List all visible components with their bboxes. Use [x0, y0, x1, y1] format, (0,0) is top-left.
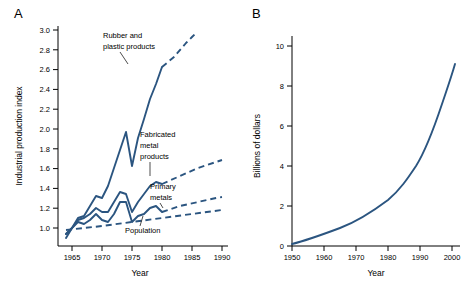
- panel-b-plot: 0 2 4 6 8 10 1950 1960 1970 1980 1990 20…: [236, 0, 472, 294]
- y-ticklabel: 1.0: [40, 224, 50, 233]
- x-ticklabel: 1950: [284, 253, 301, 262]
- annotation-line2: metals: [150, 193, 172, 202]
- panel-a: A 1.0 1.2 1.4 1.6 1.8 2.0 2.2 2.4: [0, 0, 236, 294]
- annotation-fabricated-metal: Fabricated metal products: [140, 130, 175, 176]
- y-ticklabel: 10: [276, 42, 284, 51]
- x-ticklabel: 1970: [348, 253, 365, 262]
- x-ticklabel: 1990: [214, 253, 231, 262]
- panel-a-ylabel: Industrial production index: [14, 86, 24, 186]
- y-ticklabel: 8: [280, 82, 284, 91]
- panel-b-x-ticklabels: 1950 1960 1970 1980 1990 2000: [284, 253, 461, 262]
- x-ticklabel: 1975: [124, 253, 141, 262]
- series-sales: [292, 64, 455, 244]
- y-ticklabel: 2: [280, 202, 284, 211]
- annotation-primary-metals: Primary metals: [150, 182, 176, 208]
- panel-a-xlabel: Year: [131, 268, 148, 278]
- panel-a-x-ticks: [72, 246, 222, 251]
- x-ticklabel: 2000: [444, 253, 461, 262]
- y-ticklabel: 2.2: [40, 105, 50, 114]
- y-ticklabel: 2.4: [40, 85, 50, 94]
- y-ticklabel: 0: [280, 242, 284, 251]
- x-ticklabel: 1960: [316, 253, 333, 262]
- y-ticklabel: 1.2: [40, 204, 50, 213]
- panel-a-letter: A: [14, 6, 23, 21]
- y-ticklabel: 1.6: [40, 164, 50, 173]
- series-fabricated-metal-dashed: [162, 160, 222, 184]
- x-ticklabel: 1985: [184, 253, 201, 262]
- panel-a-y-ticks: [53, 30, 58, 228]
- x-ticklabel: 1990: [412, 253, 429, 262]
- annotation-line1: Population: [125, 226, 160, 235]
- x-ticklabel: 1970: [94, 253, 111, 262]
- panel-a-x-ticklabels: 1965 1970 1975 1980 1985 1990: [64, 253, 231, 262]
- panel-b-y-ticklabels: 0 2 4 6 8 10: [276, 42, 284, 251]
- series-rubber-plastic-dashed: [162, 33, 196, 67]
- x-ticklabel: 1980: [380, 253, 397, 262]
- annotation-line1: Primary: [150, 182, 176, 191]
- panel-b-y-ticks: [287, 46, 292, 246]
- y-ticklabel: 6: [280, 122, 284, 131]
- y-ticklabel: 1.4: [40, 184, 50, 193]
- panel-b-ylabel: Billions of dollars: [252, 114, 262, 178]
- y-ticklabel: 3.0: [40, 26, 50, 35]
- annotation-line2: metal: [140, 141, 159, 150]
- y-ticklabel: 2.0: [40, 125, 50, 134]
- annotation-line1: Rubber and: [103, 31, 142, 40]
- annotation-line1: Fabricated: [140, 130, 175, 139]
- y-ticklabel: 1.8: [40, 145, 50, 154]
- panel-b-xlabel: Year: [367, 268, 384, 278]
- panel-b: B 0 2 4 6 8 10 1950: [236, 0, 472, 294]
- x-ticklabel: 1965: [64, 253, 81, 262]
- panel-a-y-ticklabels: 1.0 1.2 1.4 1.6 1.8 2.0 2.2 2.4 2.6 2.8 …: [40, 26, 50, 233]
- annotation-rubber-plastic: Rubber and plastic products: [103, 31, 155, 64]
- y-ticklabel: 4: [280, 162, 284, 171]
- x-ticklabel: 1980: [154, 253, 171, 262]
- y-ticklabel: 2.8: [40, 46, 50, 55]
- y-ticklabel: 2.6: [40, 65, 50, 74]
- panel-b-letter: B: [252, 6, 261, 21]
- panel-b-x-ticks: [292, 246, 452, 251]
- panel-a-plot: 1.0 1.2 1.4 1.6 1.8 2.0 2.2 2.4 2.6 2.8 …: [0, 0, 236, 294]
- annotation-line3: products: [140, 152, 169, 161]
- annotation-line2: plastic products: [103, 42, 155, 51]
